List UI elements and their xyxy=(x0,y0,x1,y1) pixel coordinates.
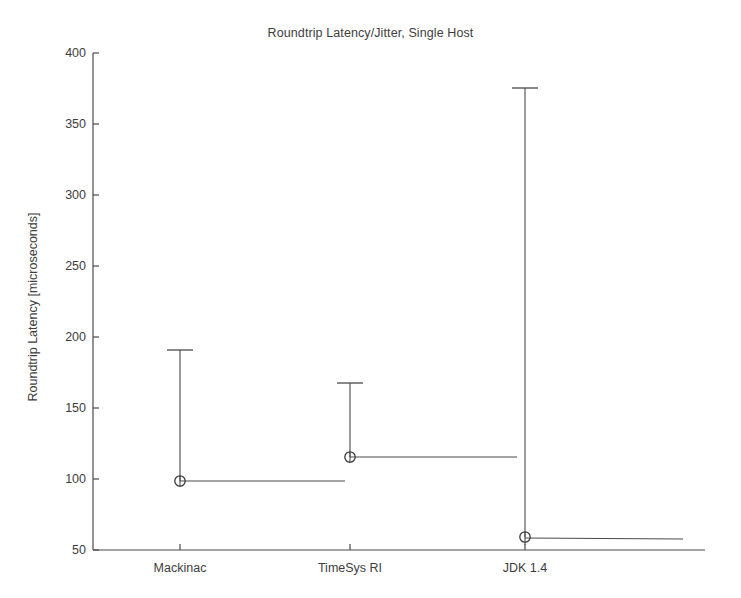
y-axis-ticks xyxy=(93,53,99,550)
datapoint-jdk-14 xyxy=(512,88,683,545)
datapoint-mackinac xyxy=(167,350,345,487)
plot-area xyxy=(0,0,741,598)
chart-figure: Roundtrip Latency/Jitter, Single Host Ro… xyxy=(0,0,741,598)
datapoint-timesys-ri xyxy=(337,383,517,463)
x-axis-ticks xyxy=(180,544,525,550)
axis-lines xyxy=(93,53,705,550)
